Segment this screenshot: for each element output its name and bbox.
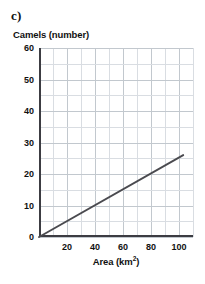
y-tick-label: 20 (24, 169, 34, 179)
y-axis-title: Camels (number) (13, 29, 89, 40)
y-axis-tick-labels: 0102030405060 (0, 48, 34, 237)
x-tick-label: 20 (62, 242, 72, 252)
chart-figure: c) Camels (number) 0102030405060 2040608… (0, 0, 205, 284)
data-series-line (39, 48, 193, 237)
gridline-horizontal (39, 237, 193, 238)
y-tick-label: 30 (24, 138, 34, 148)
gridline-vertical (193, 48, 194, 237)
x-tick-label: 40 (90, 242, 100, 252)
x-tick-label: 100 (171, 242, 186, 252)
y-tick-label: 40 (24, 106, 34, 116)
x-axis-title-tail: ) (136, 256, 139, 267)
y-tick-label: 10 (24, 201, 34, 211)
x-axis-title: Area (km2) (39, 256, 193, 267)
y-tick-label: 0 (29, 232, 34, 242)
x-tick-label: 80 (146, 242, 156, 252)
plot-area (39, 48, 193, 237)
part-label: c) (11, 8, 22, 23)
x-tick-label: 60 (118, 242, 128, 252)
x-axis-title-text: Area (km (93, 256, 133, 267)
y-tick-label: 50 (24, 75, 34, 85)
x-axis-tick-labels: 20406080100 (39, 242, 193, 254)
y-tick-label: 60 (24, 43, 34, 53)
